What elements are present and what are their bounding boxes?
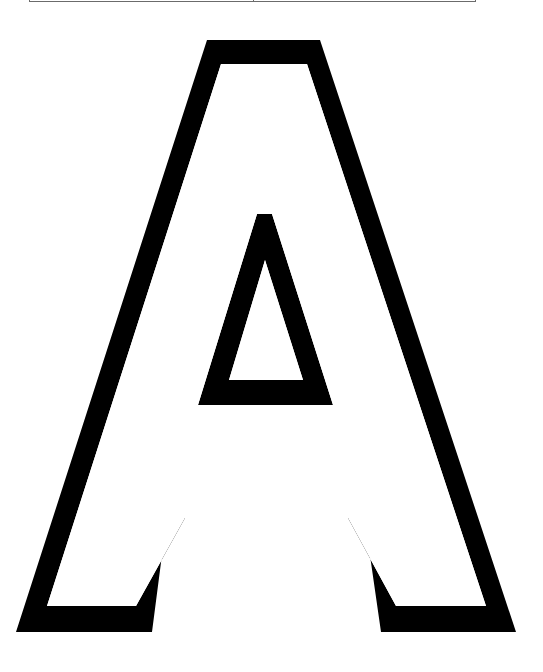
outline-letter-a [0, 0, 543, 672]
